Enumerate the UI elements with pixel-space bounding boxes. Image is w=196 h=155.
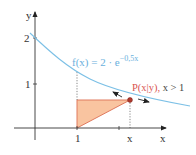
point-label: P(x|y), x > 1: [132, 83, 184, 94]
y-tick-label-1: 1: [25, 79, 31, 90]
point-p: [128, 98, 133, 103]
x-tick-label-1: 1: [75, 133, 81, 144]
shaded-triangle: [77, 100, 130, 128]
arrow-right-icon: [138, 99, 149, 102]
y-axis-label: y: [26, 10, 32, 21]
arrow-left-icon: [113, 92, 122, 97]
x-axis-label: x: [160, 133, 166, 144]
y-tick-label-2: 2: [24, 33, 30, 44]
x-tick-label-x: x: [127, 133, 133, 144]
function-label: f(x) = 2 · e−0,5x: [72, 55, 138, 68]
function-curve: [30, 33, 190, 106]
